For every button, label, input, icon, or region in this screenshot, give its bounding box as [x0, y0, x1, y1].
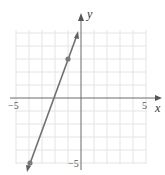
line-arrow-down-icon — [26, 165, 31, 172]
x-axis-label: x — [155, 102, 160, 114]
plotted-line — [26, 31, 79, 172]
y-axis-arrow-icon — [78, 13, 84, 21]
x-min-tick-label: −5 — [8, 101, 19, 111]
y-min-tick-label: −5 — [68, 159, 79, 169]
x-max-tick-label: 5 — [142, 101, 147, 111]
graph-canvas — [0, 0, 165, 175]
data-point — [27, 160, 32, 165]
axes — [10, 20, 158, 170]
line-arrow-up-icon — [74, 31, 79, 39]
y-axis-label: y — [87, 8, 92, 20]
data-point — [65, 56, 70, 61]
